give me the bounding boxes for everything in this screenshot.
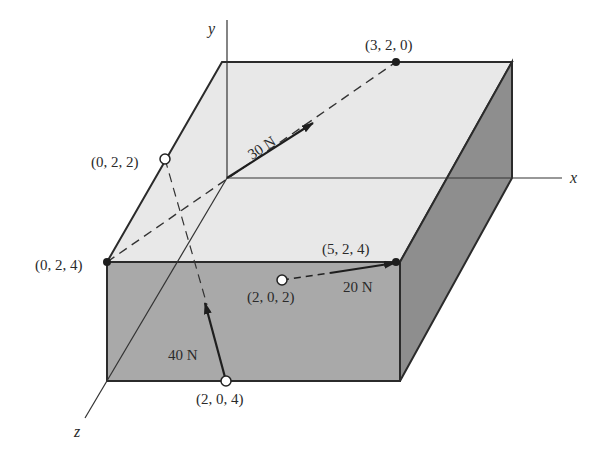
z-axis-label: z (73, 423, 81, 440)
point-0-2-4 (103, 258, 111, 266)
force-label-20n: 20 N (343, 279, 373, 295)
point-label-3-2-0: (3, 2, 0) (365, 37, 413, 54)
y-axis-label: y (206, 20, 216, 38)
point-3-2-0 (392, 58, 400, 66)
force-diagram: y x z 30 N 20 N 40 N (3, 2, 0) (0, 2, 2)… (0, 0, 610, 458)
x-axis-label: x (569, 169, 577, 186)
point-label-5-2-4: (5, 2, 4) (322, 241, 370, 258)
point-label-0-2-4: (0, 2, 4) (35, 257, 83, 274)
point-0-2-2 (160, 154, 170, 164)
point-label-0-2-2: (0, 2, 2) (91, 154, 139, 171)
point-5-2-4 (392, 258, 400, 266)
point-label-2-0-4: (2, 0, 4) (196, 391, 244, 408)
point-2-0-4 (221, 376, 231, 386)
point-2-0-2 (277, 275, 287, 285)
point-label-2-0-2: (2, 0, 2) (247, 289, 295, 306)
force-label-40n: 40 N (168, 347, 198, 363)
